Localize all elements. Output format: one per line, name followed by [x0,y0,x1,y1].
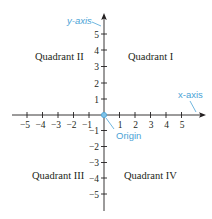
y-tick-labels: 5 4 3 2 1 −1 −2 −3 −4 −5 [89,30,99,200]
y-tick-label: 4 [94,46,99,56]
y-tick-label: 2 [94,79,99,89]
quadrant-iv-label: Quadrant IV [124,170,177,181]
y-tick-label: −3 [89,158,99,168]
x-tick-label: 5 [180,120,185,130]
x-tick-label: 4 [164,120,169,130]
quadrant-ii-label: Quadrant II [35,51,84,62]
x-tick-label: 1 [118,120,123,130]
y-axis-leader-line [92,22,101,26]
y-tick-label: 1 [94,95,99,105]
x-tick-label: 2 [133,120,138,130]
origin-label: Origin [116,130,141,141]
coordinate-plane: −5 −4 −3 −2 −1 1 2 3 4 5 5 4 3 2 1 −1 −2… [0,0,212,219]
x-axis-leader-line [190,101,196,112]
origin-leader-line [106,118,114,129]
x-axis-callout: x-axis [178,89,203,112]
y-tick-label: −5 [89,190,99,200]
x-axis [12,112,206,118]
y-axis-callout: y-axis [66,15,101,26]
y-tick-label: 5 [94,30,99,40]
y-tick-label: −2 [89,142,99,152]
x-axis-label: x-axis [178,89,203,100]
y-axis [101,13,107,211]
y-tick-label: 3 [94,62,99,72]
y-tick-label: −4 [89,174,99,184]
y-tick-label: −1 [89,126,99,136]
origin-point [101,112,106,117]
x-tick-label: −2 [66,120,76,130]
x-tick-labels: −5 −4 −3 −2 −1 1 2 3 4 5 [20,120,185,130]
x-tick-label: −4 [35,120,45,130]
x-tick-label: −5 [20,120,30,130]
x-tick-label: −3 [51,120,61,130]
x-tick-label: 3 [149,120,154,130]
quadrant-iii-label: Quadrant III [32,170,85,181]
y-axis-label: y-axis [66,15,92,26]
quadrant-i-label: Quadrant I [128,51,174,62]
